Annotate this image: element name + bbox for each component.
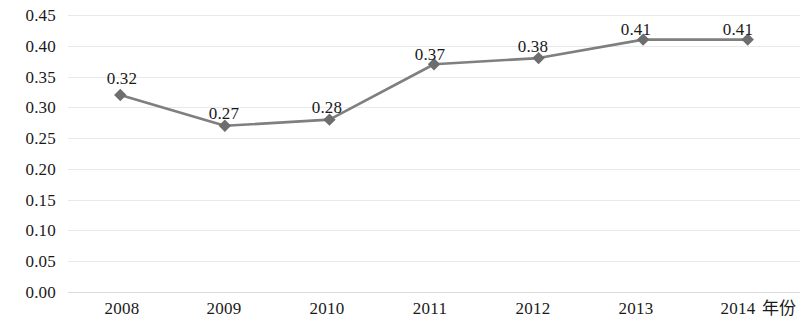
line-chart: 0.45 0.40 0.35 0.30 0.25 0.20 0.15 0.10 … bbox=[0, 0, 802, 324]
gridline-0_05 bbox=[68, 261, 800, 262]
y-tick-label-1: 0.40 bbox=[0, 38, 56, 55]
gridline-0_20 bbox=[68, 169, 800, 170]
y-tick-label-4: 0.25 bbox=[0, 130, 56, 147]
gridline-0_45 bbox=[68, 15, 800, 16]
y-tick-label-7: 0.10 bbox=[0, 222, 56, 239]
x-tick-label-2013: 2013 bbox=[591, 299, 681, 318]
gridline-0_15 bbox=[68, 200, 800, 201]
x-tick-label-2009: 2009 bbox=[179, 299, 269, 318]
point-label-2011: 0.37 bbox=[395, 46, 465, 63]
x-tick-label-2012: 2012 bbox=[488, 299, 578, 318]
y-tick-label-5: 0.20 bbox=[0, 161, 56, 178]
gridline-0_25 bbox=[68, 138, 800, 139]
y-tick-label-8: 0.05 bbox=[0, 253, 56, 270]
y-tick-label-0: 0.45 bbox=[0, 7, 56, 24]
x-tick-label-2011: 2011 bbox=[385, 299, 475, 318]
gridline-0_30 bbox=[68, 107, 800, 108]
x-axis-title: 年份 bbox=[762, 299, 796, 318]
y-tick-label-3: 0.30 bbox=[0, 99, 56, 116]
gridline-0_10 bbox=[68, 230, 800, 231]
point-label-2013: 0.41 bbox=[601, 21, 671, 38]
x-tick-label-2010: 2010 bbox=[282, 299, 372, 318]
point-label-2012: 0.38 bbox=[498, 38, 568, 55]
y-tick-label-6: 0.15 bbox=[0, 192, 56, 209]
point-label-2009: 0.27 bbox=[189, 105, 259, 122]
y-tick-label-9: 0.00 bbox=[0, 284, 56, 301]
point-label-2008: 0.32 bbox=[87, 70, 157, 87]
gridline-0_35 bbox=[68, 77, 800, 78]
gridline-0_00 bbox=[68, 292, 800, 293]
y-tick-label-2: 0.35 bbox=[0, 69, 56, 86]
point-label-2014: 0.41 bbox=[703, 21, 773, 38]
x-tick-label-2008: 2008 bbox=[77, 299, 167, 318]
point-label-2010: 0.28 bbox=[292, 99, 362, 116]
